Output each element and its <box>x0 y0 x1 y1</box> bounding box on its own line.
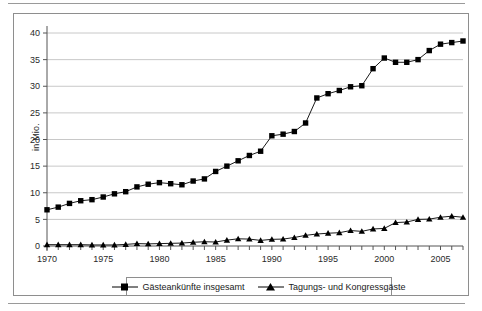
svg-text:1990: 1990 <box>262 254 282 264</box>
svg-text:15: 15 <box>30 161 40 171</box>
svg-text:1970: 1970 <box>37 254 57 264</box>
svg-text:40: 40 <box>30 28 40 38</box>
chart-legend: Gästeankünfte insgesamt Tagungs- und Kon… <box>126 277 392 296</box>
legend-label-gaesteankuenfte: Gästeankünfte insgesamt <box>142 282 244 292</box>
svg-text:25: 25 <box>30 108 40 118</box>
line-chart: 0510152025303540197019751980198519901995… <box>14 14 470 297</box>
bottom-horizontal-rule <box>8 303 465 304</box>
svg-text:2000: 2000 <box>374 254 394 264</box>
svg-text:5: 5 <box>35 215 40 225</box>
svg-text:35: 35 <box>30 55 40 65</box>
top-horizontal-rule <box>8 3 465 4</box>
svg-text:10: 10 <box>30 188 40 198</box>
legend-item-tagungsgaeste: Tagungs- und Kongressgäste <box>258 282 405 292</box>
svg-text:30: 30 <box>30 81 40 91</box>
svg-text:1995: 1995 <box>318 254 338 264</box>
legend-item-gaesteankuenfte: Gästeankünfte insgesamt <box>112 282 244 292</box>
legend-label-tagungsgaeste: Tagungs- und Kongressgäste <box>288 282 405 292</box>
svg-text:20: 20 <box>30 135 40 145</box>
svg-text:1975: 1975 <box>93 254 113 264</box>
legend-triangle-marker-icon <box>258 282 284 292</box>
svg-text:1985: 1985 <box>206 254 226 264</box>
svg-text:0: 0 <box>35 241 40 251</box>
chart-frame: in Mio. 05101520253035401970197519801985… <box>13 13 469 296</box>
legend-square-marker-icon <box>112 282 138 292</box>
svg-text:2005: 2005 <box>430 254 450 264</box>
svg-text:1980: 1980 <box>149 254 169 264</box>
